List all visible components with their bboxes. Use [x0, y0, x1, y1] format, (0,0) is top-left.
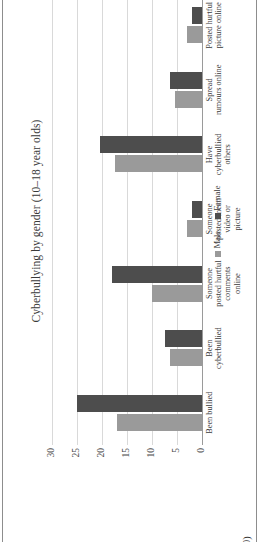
page-rule-right: [256, 0, 257, 542]
bar-group: [52, 122, 202, 187]
tick-label: 20: [96, 448, 106, 476]
category-label: Someoneposted hurtfulcommentsonline: [205, 251, 242, 316]
bar-female: [170, 72, 203, 89]
bar-female: [77, 395, 202, 412]
bar-male: [115, 155, 203, 172]
tick-label: 0: [196, 448, 206, 476]
legend-swatch-male-icon: [215, 251, 221, 257]
bar-group: [52, 58, 202, 123]
tick-label: 30: [46, 448, 56, 476]
legend-entry-female: Female: [212, 185, 222, 218]
axis-baseline: [202, 0, 203, 445]
legend-label-male: Male: [212, 231, 222, 249]
plot-area: 302520151050 Been bulliedBeencyberbullie…: [52, 0, 202, 445]
bar-group: [52, 0, 202, 58]
chart-legend: Male Female: [212, 0, 222, 471]
bar-male: [152, 285, 202, 302]
tick-label: 10: [146, 448, 156, 476]
bar-group: [52, 316, 202, 381]
tick-label: 5: [171, 448, 181, 476]
bar-group: [52, 251, 202, 316]
legend-swatch-female-icon: [215, 213, 221, 219]
rotated-chart: Cyberbullying by gender (10–18 year olds…: [30, 0, 230, 471]
bar-male: [175, 91, 203, 108]
legend-label-female: Female: [212, 185, 222, 210]
footnote-text: Hinduja and Patchin (2010): [241, 536, 252, 542]
bar-female: [165, 330, 203, 347]
bar-group: [52, 187, 202, 252]
bar-female: [100, 136, 203, 153]
legend-entry-male: Male: [212, 231, 222, 257]
tick-label: 25: [71, 448, 81, 476]
bar-male: [187, 26, 202, 43]
chart-title: Cyberbullying by gender (10–18 year olds…: [30, 0, 42, 471]
figure-container: Cyberbullying by gender (10–18 year olds…: [0, 0, 260, 542]
tick-label: 15: [121, 448, 131, 476]
bar-male: [117, 414, 202, 431]
bar-female: [192, 7, 202, 24]
bar-female: [112, 266, 202, 283]
bar-male: [170, 349, 203, 366]
category-label: Someoneposted meanvideo orpicture: [205, 187, 242, 252]
bar-group: [52, 380, 202, 445]
bar-female: [192, 201, 202, 218]
footnote: a Hinduja and Patchin (2010): [240, 536, 252, 542]
page-rule-left: [2, 0, 3, 542]
bar-male: [187, 220, 202, 237]
